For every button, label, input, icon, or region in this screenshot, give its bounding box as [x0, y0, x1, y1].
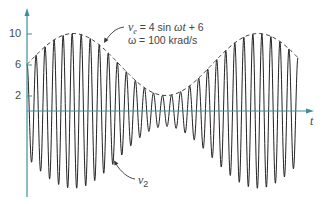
y-axis-arrow-icon [25, 8, 30, 16]
ve-omega-t: ωt [174, 20, 186, 34]
y-tick-label-6: 6 [15, 58, 21, 70]
y-tick-label-10: 10 [9, 27, 21, 39]
ve-leader-arrow-icon [104, 38, 109, 44]
y-tick-label-2: 2 [15, 89, 21, 101]
ve-rhs: = 4 sin [137, 21, 174, 33]
ve-tail: + 6 [186, 21, 204, 33]
ve-leader-line [106, 27, 124, 40]
v2-leader-line [116, 164, 135, 179]
x-axis-arrow-icon [306, 109, 314, 114]
x-axis-label: t [310, 114, 313, 129]
omega-label: ω = 100 krad/s [128, 34, 197, 46]
v2-label: v2 [138, 173, 148, 189]
v2-sub: 2 [143, 179, 148, 189]
